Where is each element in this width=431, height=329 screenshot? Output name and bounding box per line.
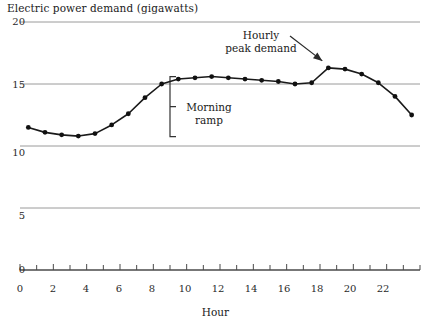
data-point (43, 130, 48, 135)
data-point (59, 132, 64, 137)
x-tick-label-6: 6 (107, 283, 131, 294)
data-point (276, 79, 281, 84)
annotation-peak-line1: Hourly (213, 29, 309, 42)
x-tick-label-10: 10 (173, 283, 197, 294)
gridlines (20, 22, 420, 270)
data-point (143, 95, 148, 100)
arrow-head (313, 53, 322, 61)
data-point (226, 75, 231, 80)
data-point (359, 72, 364, 77)
ramp-bracket-path (170, 77, 176, 137)
x-tick-label-20: 20 (338, 283, 362, 294)
data-point (293, 82, 298, 87)
x-axis-ticks (20, 264, 420, 270)
y-tick-label-20: 20 (3, 16, 25, 27)
data-point (26, 125, 31, 130)
x-tick-label-12: 12 (206, 283, 230, 294)
annotation-ramp-line1: Morning (178, 101, 240, 114)
x-tick-label-0: 0 (8, 283, 32, 294)
data-point (376, 80, 381, 85)
data-point (109, 123, 114, 128)
x-tick-label-4: 4 (74, 283, 98, 294)
y-tick-label-10: 10 (3, 147, 25, 158)
data-point (393, 94, 398, 99)
data-point (209, 74, 214, 79)
data-point (243, 77, 248, 82)
y-tick-label-0: 0 (3, 264, 25, 275)
data-point (409, 113, 414, 118)
electric-power-demand-chart: Electric power demand (gigawatts) Hour 2… (0, 0, 431, 329)
annotation-hourly-peak-demand: Hourly peak demand (213, 29, 309, 55)
morning-ramp-bracket (170, 77, 176, 137)
y-tick-label-15: 15 (3, 79, 25, 90)
annotation-morning-ramp: Morning ramp (178, 101, 240, 127)
data-point (326, 65, 331, 70)
annotation-peak-line2: peak demand (213, 42, 309, 55)
x-tick-label-22: 22 (371, 283, 395, 294)
x-tick-label-2: 2 (41, 283, 65, 294)
annotation-ramp-line2: ramp (178, 114, 240, 127)
x-tick-label-8: 8 (140, 283, 164, 294)
data-point (126, 111, 131, 116)
x-tick-label-14: 14 (239, 283, 263, 294)
data-point (259, 78, 264, 83)
data-point (309, 80, 314, 85)
data-point (159, 82, 164, 87)
x-axis-label: Hour (0, 306, 431, 318)
chart-title: Electric power demand (gigawatts) (7, 2, 198, 14)
y-tick-label-5: 5 (3, 210, 25, 221)
x-tick-label-18: 18 (305, 283, 329, 294)
data-point (76, 134, 81, 139)
x-tick-label-16: 16 (272, 283, 296, 294)
data-point (193, 75, 198, 80)
data-point (93, 131, 98, 136)
data-point (343, 67, 348, 72)
data-point (176, 77, 181, 82)
